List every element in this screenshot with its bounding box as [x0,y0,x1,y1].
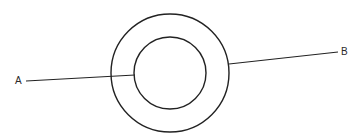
point-label-b: B [341,47,348,57]
line-from-a [26,75,135,81]
line-to-b [229,52,338,64]
concentric-circles-figure [0,0,361,140]
outer-circle [111,14,229,132]
point-label-a: A [15,76,22,86]
inner-circle [134,37,206,109]
diagram-canvas: A B [0,0,361,140]
